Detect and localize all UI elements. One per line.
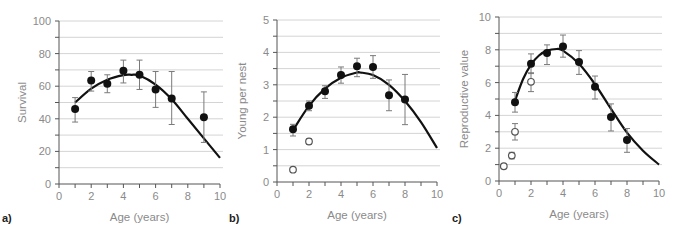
filled-data-point — [200, 113, 208, 121]
y-axis-label: Reproductive value — [458, 50, 470, 148]
x-tick-label: 4 — [560, 187, 566, 199]
filled-data-point — [591, 83, 599, 91]
y-tick-label: 4 — [485, 109, 491, 121]
filled-data-point — [511, 98, 519, 106]
y-tick-label: 5 — [263, 14, 269, 26]
x-tick-label: 2 — [306, 188, 312, 200]
filled-data-point — [71, 105, 79, 113]
x-tick-label: 8 — [624, 187, 630, 199]
filled-data-point — [321, 87, 329, 95]
x-axis-label: Age (years) — [110, 211, 170, 223]
y-tick-label: 0 — [45, 178, 51, 190]
y-tick-label: 2 — [263, 111, 269, 123]
filled-data-point — [385, 91, 393, 99]
x-axis-label: Age (years) — [327, 209, 387, 221]
x-tick-label: 10 — [653, 187, 665, 199]
y-tick-label: 1 — [263, 144, 269, 156]
filled-data-point — [152, 85, 160, 93]
y-tick-label: 6 — [485, 77, 491, 89]
filled-data-point — [623, 136, 631, 144]
panel-letter: c) — [452, 212, 462, 224]
fit-curve — [75, 75, 220, 158]
x-tick-label: 8 — [402, 188, 408, 200]
filled-data-point — [607, 113, 615, 121]
y-tick-label: 20 — [39, 145, 51, 157]
y-axis-label: Survival — [16, 82, 28, 123]
filled-data-point — [119, 67, 127, 75]
open-data-point — [306, 138, 313, 145]
filled-data-point — [87, 76, 95, 84]
filled-data-point — [559, 43, 567, 51]
filled-data-point — [543, 49, 551, 57]
filled-data-point — [136, 71, 144, 79]
x-tick-label: 0 — [496, 187, 502, 199]
filled-data-point — [337, 71, 345, 79]
y-tick-label: 60 — [39, 80, 51, 92]
filled-data-point — [353, 62, 361, 70]
x-tick-label: 0 — [56, 190, 62, 202]
x-tick-label: 4 — [338, 188, 344, 200]
fit-curve — [293, 72, 437, 148]
filled-data-point — [401, 95, 409, 103]
panel-c-reproductive-value: 02468100246810Age (years)Reproductive va… — [452, 11, 665, 224]
open-data-point — [290, 166, 297, 173]
y-axis-label: Young per nest — [236, 62, 248, 140]
filled-data-point — [305, 102, 313, 110]
x-tick-label: 6 — [153, 190, 159, 202]
filled-data-point — [527, 60, 535, 68]
y-tick-label: 2 — [485, 142, 491, 154]
y-tick-label: 4 — [263, 46, 269, 58]
y-tick-label: 0 — [485, 175, 491, 187]
y-tick-label: 40 — [39, 113, 51, 125]
filled-data-point — [168, 94, 176, 102]
x-tick-label: 2 — [88, 190, 94, 202]
open-data-point — [501, 163, 508, 170]
filled-data-point — [103, 80, 111, 88]
x-tick-label: 2 — [528, 187, 534, 199]
y-tick-label: 100 — [33, 15, 51, 27]
figure: 0204060801000246810Age (years)Survivala)… — [0, 0, 675, 233]
y-tick-label: 0 — [263, 176, 269, 188]
panel-b-young-per-nest: 0123450246810Age (years)Young per nestb) — [229, 14, 443, 224]
x-tick-label: 10 — [431, 188, 443, 200]
y-tick-label: 10 — [479, 11, 491, 23]
x-tick-label: 6 — [370, 188, 376, 200]
filled-data-point — [575, 58, 583, 66]
x-tick-label: 6 — [592, 187, 598, 199]
x-tick-label: 4 — [120, 190, 126, 202]
x-tick-label: 8 — [185, 190, 191, 202]
panel-letter: b) — [229, 212, 240, 224]
x-tick-label: 10 — [214, 190, 226, 202]
open-data-point — [509, 152, 516, 159]
filled-data-point — [289, 125, 297, 133]
panel-a-survival: 0204060801000246810Age (years)Survivala) — [2, 15, 226, 224]
x-tick-label: 0 — [274, 188, 280, 200]
x-axis-label: Age (years) — [549, 208, 609, 220]
open-data-point — [528, 78, 535, 85]
panel-letter: a) — [2, 212, 12, 224]
y-tick-label: 8 — [485, 44, 491, 56]
y-tick-label: 80 — [39, 48, 51, 60]
filled-data-point — [369, 63, 377, 71]
open-data-point — [512, 129, 519, 136]
y-tick-label: 3 — [263, 79, 269, 91]
